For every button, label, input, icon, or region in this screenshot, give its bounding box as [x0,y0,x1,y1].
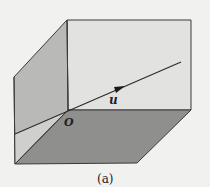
back-wall-plane [67,20,191,110]
diagram-canvas: u O (a) [0,0,210,187]
origin-label-o: O [64,116,74,129]
figure-caption: (a) [97,172,114,186]
vector-label-u: u [109,93,118,107]
